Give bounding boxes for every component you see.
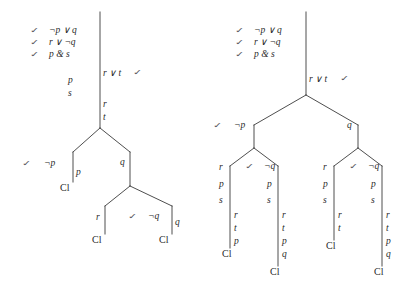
right-col2-label-0: ¬q <box>264 162 275 172</box>
left-branch-neg-q-check: ✓ <box>127 213 139 221</box>
left-trunk-label-r: r <box>103 100 107 110</box>
right-col4-closure: Cl <box>374 267 383 277</box>
right-col4-label-6: q <box>386 250 391 260</box>
right-col2-label-6: q <box>282 250 287 260</box>
proof-tree-figure: ✓ ¬p ∨ q ✓ r ∨ ¬q ✓ p & s p s r ∨ t ✓ r … <box>0 0 394 291</box>
right-col3-label-1: p <box>323 180 328 190</box>
left-branch-label-q: q <box>120 158 125 168</box>
right-col2-label-1: p <box>267 180 272 190</box>
right-level1-label-neg-p: ¬p <box>234 121 245 131</box>
right-premise-3-formula: p & s <box>254 50 275 60</box>
right-col2-label-4: t <box>282 224 285 234</box>
right-col4-label-2: s <box>371 196 375 206</box>
right-col4-label-4: t <box>386 224 389 234</box>
right-premise-1-check: ✓ <box>234 27 246 35</box>
right-col2-check: ✓ <box>244 163 256 171</box>
right-col1-closure: Cl <box>222 249 231 259</box>
left-branch-label-q2: q <box>175 218 180 228</box>
left-trunk-label-t: t <box>103 113 106 123</box>
left-trunk-label-r-or-t: r ∨ t <box>103 69 121 79</box>
right-col4-label-3: r <box>386 211 390 221</box>
right-col2-closure: Cl <box>270 267 279 277</box>
right-col2-label-3: r <box>282 211 286 221</box>
right-premise-1-formula: ¬p ∨ q <box>254 26 282 36</box>
right-col3-closure: Cl <box>326 241 335 251</box>
right-col3-label-4: t <box>338 224 341 234</box>
left-closure-3: Cl <box>159 235 168 245</box>
right-col2-label-2: s <box>267 196 271 206</box>
right-col3-label-2: s <box>323 196 327 206</box>
right-col1-label-4: t <box>234 224 237 234</box>
left-branch-label-neg-q: ¬q <box>148 212 159 222</box>
right-level1-label-q: q <box>347 121 352 131</box>
left-closure-1: Cl <box>60 183 69 193</box>
right-col1-label-1: p <box>219 180 224 190</box>
right-col2-label-5: p <box>282 237 287 247</box>
left-branch-label-neg-p: ¬p <box>44 159 55 169</box>
left-closure-2: Cl <box>92 235 101 245</box>
left-premise-2-check: ✓ <box>29 39 41 47</box>
right-col3-label-3: r <box>338 211 342 221</box>
left-branch-label-r: r <box>96 213 100 223</box>
left-premise-1-check: ✓ <box>29 27 41 35</box>
left-trunk-r-or-t-check: ✓ <box>132 69 144 77</box>
left-premise-3-check: ✓ <box>29 51 41 59</box>
right-level1-neg-p-check: ✓ <box>212 122 224 130</box>
right-col3-label-0: r <box>323 163 327 173</box>
right-premise-2-formula: r ∨ ¬q <box>254 38 281 48</box>
left-premise-2-formula: r ∨ ¬q <box>49 38 76 48</box>
right-col1-label-2: s <box>219 196 223 206</box>
right-col4-check: ✓ <box>348 163 360 171</box>
left-premise-3-formula: p & s <box>49 50 70 60</box>
right-trunk-r-or-t-check: ✓ <box>339 75 351 83</box>
left-trunk-label-s: s <box>68 89 72 99</box>
right-premise-3-check: ✓ <box>234 51 246 59</box>
right-col1-label-0: r <box>219 163 223 173</box>
right-col1-label-5: p <box>234 237 239 247</box>
right-trunk-label-r-or-t: r ∨ t <box>309 75 327 85</box>
left-branch-neg-p-check: ✓ <box>21 160 33 168</box>
left-branch-label-p: p <box>76 168 81 178</box>
right-premise-2-check: ✓ <box>234 39 246 47</box>
right-col4-label-5: p <box>386 237 391 247</box>
left-premise-1-formula: ¬p ∨ q <box>49 26 77 36</box>
right-col4-label-1: p <box>371 180 376 190</box>
right-col1-label-3: r <box>234 211 238 221</box>
right-col4-label-0: ¬q <box>368 162 379 172</box>
left-trunk-label-p: p <box>68 76 73 86</box>
